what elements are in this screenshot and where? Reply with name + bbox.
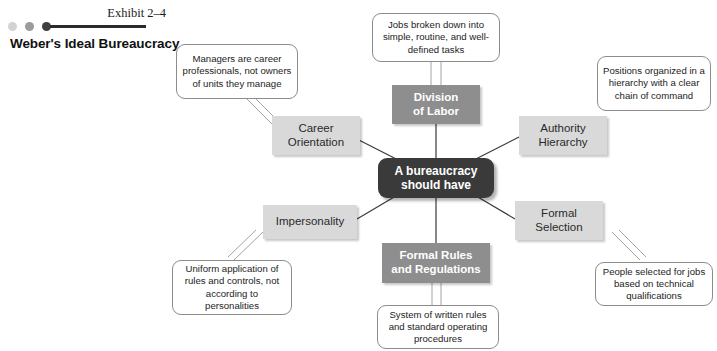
callout-formal-rules: System of written rules and standard ope… (377, 305, 499, 349)
node-authority-hierarchy-line-1: Authority (538, 122, 587, 136)
callout-career-orientation-line-2: professionals, not (183, 65, 258, 76)
hub-line-1: A bureaucracy (395, 164, 478, 178)
node-division-of-labor-line-1: Division (413, 91, 459, 105)
node-impersonality-line-1: Impersonality (276, 215, 344, 229)
callout-impersonality-line-4: personalities (205, 300, 259, 311)
node-authority-hierarchy-line-2: Hierarchy (538, 136, 587, 150)
node-impersonality[interactable]: Impersonality (263, 205, 357, 239)
central-node-bureaucracy[interactable]: A bureaucracy should have (378, 158, 494, 198)
callout-career-orientation: Managers are career professionals, not o… (176, 44, 298, 99)
callout-authority-hierarchy-line-4: of command (640, 90, 693, 101)
callout-division-of-labor: Jobs broken down into simple, routine, a… (372, 13, 500, 62)
callout-formal-rules-line-1: System of written (389, 309, 463, 320)
callout-formal-selection-line-1: People selected for (603, 266, 685, 277)
callout-career-orientation-line-4: manage (247, 78, 282, 89)
callout-formal-selection: People selected for jobs based on techni… (595, 262, 713, 306)
callout-authority-hierarchy-line-1: Positions organized (603, 65, 687, 76)
node-formal-selection[interactable]: Formal Selection (515, 201, 603, 240)
node-formal-rules-and-regulations[interactable]: Formal Rules and Regulations (382, 243, 490, 283)
node-authority-hierarchy[interactable]: Authority Hierarchy (519, 116, 607, 155)
node-formal-selection-line-1: Formal (535, 207, 582, 221)
node-career-orientation-line-2: Orientation (288, 136, 344, 150)
node-division-of-labor[interactable]: Division of Labor (392, 85, 480, 124)
callout-impersonality: Uniform application of rules and control… (172, 260, 292, 315)
node-formal-rules-line-2: and Regulations (391, 263, 480, 277)
callout-division-of-labor-line-1: Jobs broken down (388, 19, 466, 30)
node-formal-selection-line-2: Selection (535, 221, 582, 235)
node-division-of-labor-line-2: of Labor (413, 105, 459, 119)
node-formal-rules-line-1: Formal Rules (391, 249, 480, 263)
hub-line-2: should have (395, 178, 478, 192)
callout-authority-hierarchy: Positions organized in a hierarchy with … (597, 56, 711, 111)
exhibit-diagram: Exhibit 2–4 Weber's Ideal Bureaucracy (0, 0, 717, 351)
node-career-orientation[interactable]: Career Orientation (272, 116, 360, 155)
node-career-orientation-line-1: Career (288, 122, 344, 136)
callout-impersonality-line-1: Uniform application (186, 263, 268, 274)
callout-career-orientation-line-1: Managers are career (192, 53, 281, 64)
